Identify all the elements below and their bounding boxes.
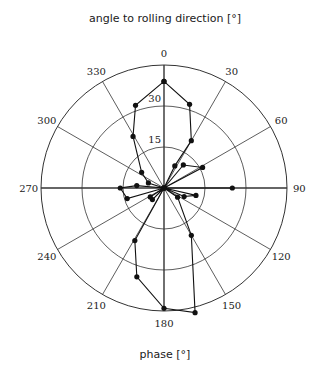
data-point — [118, 185, 123, 190]
data-point — [175, 195, 180, 200]
data-point — [230, 185, 235, 190]
data-point — [161, 79, 166, 84]
data-point — [189, 233, 194, 238]
data-point — [189, 138, 194, 143]
center-point — [161, 185, 167, 191]
angular-tick-label: 240 — [37, 251, 56, 262]
radial-tick-label: 15 — [148, 134, 161, 145]
data-point — [148, 194, 153, 199]
data-point — [200, 165, 205, 170]
radial-tick-label: 30 — [148, 93, 161, 104]
data-point — [146, 180, 151, 185]
data-point — [172, 163, 177, 168]
x-axis-label: phase [°] — [0, 348, 330, 361]
data-point — [139, 170, 144, 175]
data-point — [134, 274, 139, 279]
angular-tick-label: 210 — [87, 300, 106, 311]
data-point — [187, 102, 192, 107]
data-point — [133, 103, 138, 108]
angular-tick-label: 0 — [161, 48, 167, 59]
data-point — [132, 238, 137, 243]
angular-tick-label: 30 — [225, 66, 238, 77]
data-point — [161, 306, 166, 311]
data-point — [130, 134, 135, 139]
angular-tick-label: 300 — [37, 115, 56, 126]
angular-tick-label: 150 — [222, 300, 241, 311]
data-point — [134, 183, 139, 188]
data-point — [193, 193, 198, 198]
angular-tick-label: 60 — [275, 115, 288, 126]
data-point — [181, 162, 186, 167]
grid-spoke — [164, 188, 226, 295]
angular-tick-label: 120 — [272, 251, 291, 262]
data-point — [125, 196, 130, 201]
angular-tick-label: 180 — [154, 318, 173, 329]
angular-tick-label: 90 — [293, 183, 306, 194]
data-point — [182, 194, 187, 199]
polar-chart: 1530 0306090120150180210240270300330 — [0, 0, 330, 380]
angular-tick-label: 330 — [87, 66, 106, 77]
angular-tick-label: 270 — [19, 183, 38, 194]
data-point — [192, 310, 197, 315]
